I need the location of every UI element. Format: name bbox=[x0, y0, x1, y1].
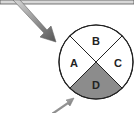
quadrant-diagram: B A C D bbox=[0, 0, 134, 113]
quadrant-circle: B A C D bbox=[59, 25, 133, 99]
large-arrow-icon bbox=[13, 0, 56, 42]
label-c: C bbox=[114, 57, 122, 69]
label-d: D bbox=[92, 79, 100, 91]
small-arrow-icon bbox=[52, 98, 74, 113]
label-a: A bbox=[70, 57, 78, 69]
label-b: B bbox=[92, 35, 100, 47]
